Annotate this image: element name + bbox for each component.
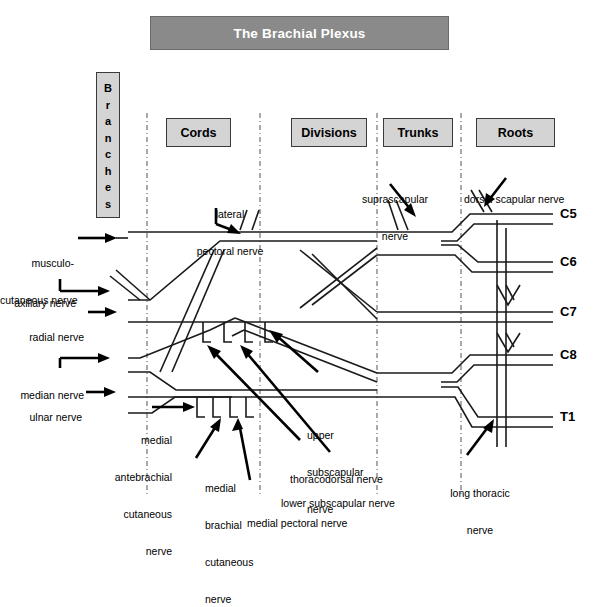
label-line: upper xyxy=(307,429,387,441)
stub-medial-pectoral-b xyxy=(246,397,254,417)
label-ulnar-nerve: ulnar nerve xyxy=(0,386,82,448)
label-line: cutaneous xyxy=(94,508,172,520)
stub-medial-brachial xyxy=(213,397,221,417)
label-line: medial xyxy=(94,434,172,446)
label-line: nerve xyxy=(205,593,283,605)
arrow-radial-head xyxy=(105,307,117,317)
label-line: musculo- xyxy=(0,257,74,269)
arrow-musculocutaneous-head xyxy=(105,233,117,243)
arrow-ulnar-head xyxy=(104,387,116,397)
label-line: long thoracic xyxy=(430,487,530,499)
medial-cord-top xyxy=(128,372,240,390)
root-label-c6: C6 xyxy=(560,254,577,269)
arrow-long-thoracic-shaft xyxy=(467,427,488,455)
label-line: lateral xyxy=(180,208,280,220)
label-line: ulnar nerve xyxy=(0,411,82,423)
arrow-medial-brachial-head xyxy=(210,418,221,432)
label-line: dorsal scapular nerve xyxy=(464,193,604,205)
label-suprascapular-nerve: suprascapular nerve xyxy=(347,168,443,267)
stub-medial-antebrachial xyxy=(197,397,205,417)
label-line: nerve xyxy=(94,545,172,557)
arrow-medial-brachial-shaft xyxy=(196,426,216,458)
label-medial-antebrachial-cutaneous-nerve: medial antebrachial cutaneous nerve xyxy=(94,409,172,583)
label-line: suprascapular xyxy=(347,193,443,205)
label-line: lower subscapular nerve xyxy=(281,497,431,509)
label-line: nerve xyxy=(347,230,443,242)
arrow-median-head xyxy=(98,353,110,363)
stub-medial-pectoral-a xyxy=(230,397,238,417)
arrow-medial-antebrachial-head xyxy=(183,402,195,412)
root-label-c8: C8 xyxy=(560,347,577,362)
arrow-axillary-head xyxy=(98,286,110,296)
stub-thoracodorsal xyxy=(224,322,232,342)
posterior-cord-inner xyxy=(232,330,244,336)
label-line: pectoral nerve xyxy=(180,245,280,257)
label-lower-subscapular-nerve: lower subscapular nerve xyxy=(281,472,431,534)
label-line: antebrachial xyxy=(94,471,172,483)
root-label-t1: T1 xyxy=(560,409,575,424)
label-radial-nerve: radial nerve xyxy=(0,306,84,368)
long-thoracic-c6-wedge-b xyxy=(506,285,514,300)
label-line: radial nerve xyxy=(0,331,84,343)
root-label-c7: C7 xyxy=(560,304,577,319)
label-line: nerve xyxy=(430,524,530,536)
long-thoracic-c7-wedge-b xyxy=(506,333,514,347)
label-lateral-pectoral-nerve: lateral pectoral nerve xyxy=(180,183,280,282)
label-line: cutaneous xyxy=(205,556,283,568)
label-dorsal-scapular-nerve: dorsal scapular nerve xyxy=(464,168,604,230)
label-long-thoracic-nerve: long thoracic nerve xyxy=(430,462,530,561)
arrow-medial-pectoral-head xyxy=(232,418,243,431)
